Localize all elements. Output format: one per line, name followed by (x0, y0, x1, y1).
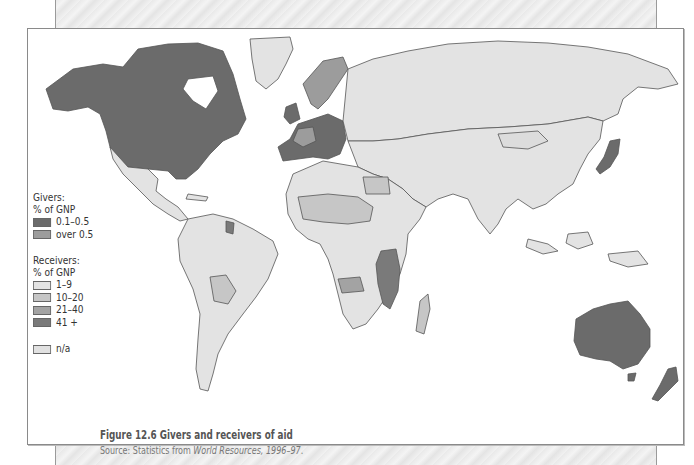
legend-item-receivers-10-20: 10–20 (33, 292, 93, 305)
legend-item-receivers-21-40: 21–40 (33, 304, 93, 317)
legend-item-na: n/a (33, 343, 93, 356)
region-greenland (250, 37, 293, 89)
givers-subheading: % of GNP (33, 204, 93, 216)
legend-label: 21–40 (56, 304, 83, 316)
swatch-receivers-1-9 (33, 281, 51, 290)
figure-caption: Figure 12.6 Givers and receivers of aid … (100, 428, 303, 456)
region-southeast-asia (526, 232, 648, 267)
region-north-america (46, 43, 246, 179)
legend-label: 41 + (56, 317, 78, 329)
swatch-na (33, 345, 51, 354)
swatch-givers-low (33, 218, 51, 227)
legend-label: 1–9 (56, 279, 72, 291)
region-scandinavia (303, 57, 348, 109)
swatch-receivers-21-40 (33, 306, 51, 315)
figure-title: Figure 12.6 Givers and receivers of aid (100, 428, 303, 442)
region-australia (574, 301, 650, 369)
legend-item-givers-high: over 0.5 (33, 229, 93, 242)
receivers-subheading: % of GNP (33, 267, 93, 279)
source-work: World Resources, 1996–97 (193, 444, 300, 456)
legend-label: 0.1–0.5 (56, 216, 89, 228)
region-madagascar (416, 294, 430, 334)
figure-panel: Givers: % of GNP 0.1–0.5 over 0.5 Receiv… (27, 28, 684, 445)
swatch-receivers-10-20 (33, 293, 51, 302)
region-japan (596, 139, 620, 174)
source-prefix: Source: Statistics from (100, 444, 193, 456)
map-legend: Givers: % of GNP 0.1–0.5 over 0.5 Receiv… (33, 192, 93, 356)
swatch-receivers-41 (33, 318, 51, 327)
legend-item-givers-low: 0.1–0.5 (33, 216, 93, 229)
legend-item-receivers-41: 41 + (33, 317, 93, 330)
swatch-givers-high (33, 230, 51, 239)
legend-label: 10–20 (56, 292, 83, 304)
legend-label: n/a (56, 343, 70, 355)
legend-item-receivers-1-9: 1–9 (33, 279, 93, 292)
region-russia-eastern-europe (343, 41, 678, 141)
figure-source: Source: Statistics from World Resources,… (100, 444, 303, 456)
region-uk (284, 103, 300, 124)
legend-label: over 0.5 (56, 229, 93, 241)
source-suffix: . (301, 444, 304, 456)
region-new-zealand (652, 367, 678, 401)
world-map (28, 29, 683, 444)
